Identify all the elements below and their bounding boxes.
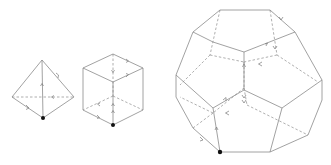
dodecahedron — [176, 10, 322, 154]
base-point-dot — [218, 150, 222, 154]
base-point-dot — [111, 123, 115, 127]
cube — [83, 54, 143, 127]
hidden-edges — [180, 10, 318, 135]
arrow-marks — [200, 17, 283, 141]
tetrahedron — [12, 60, 74, 120]
base-point-dot — [41, 116, 45, 120]
polyhedra-figure — [0, 0, 331, 165]
